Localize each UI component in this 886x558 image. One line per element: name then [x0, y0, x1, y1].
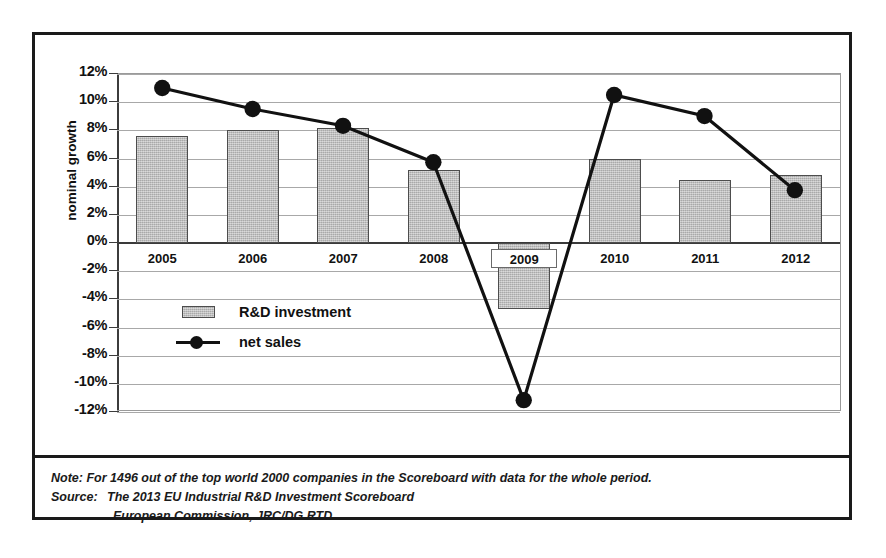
note-text: For 1496 out of the top world 2000 compa… — [86, 471, 651, 485]
note-panel: Note: For 1496 out of the top world 2000… — [35, 458, 849, 520]
y-axis-tick — [109, 101, 118, 102]
source-text-line-2: European Commission, JRC/DG RTD. — [113, 509, 336, 523]
chart-legend: R&D investment net sales — [175, 297, 351, 357]
figure-frame: 12%10%8%6%4%2%0%-2%-4%-6%-8%-10%-12% nom… — [32, 32, 852, 520]
note-line: Note: For 1496 out of the top world 2000… — [51, 469, 833, 488]
y-axis-tick — [109, 355, 118, 356]
net-sales-marker-2005 — [154, 80, 170, 96]
plot-area: 20052006200720082009201020112012 — [117, 73, 841, 411]
y-axis-tick — [109, 73, 118, 74]
y-axis-tick — [109, 298, 118, 299]
source-line-2: European Commission, JRC/DG RTD. — [51, 507, 833, 526]
net-sales-marker-2009 — [516, 392, 532, 408]
legend-item-net-sales: net sales — [175, 327, 351, 357]
y-axis-tick — [109, 214, 118, 215]
y-axis-tick — [109, 158, 118, 159]
legend-label-rd-investment: R&D investment — [239, 304, 351, 320]
source-line-1: Source: The 2013 EU Industrial R&D Inves… — [51, 488, 833, 507]
net-sales-marker-2007 — [335, 118, 351, 134]
chart-panel: 12%10%8%6%4%2%0%-2%-4%-6%-8%-10%-12% nom… — [35, 35, 849, 455]
source-text-line-1: The 2013 EU Industrial R&D Investment Sc… — [107, 488, 414, 507]
line-series-net-sales — [117, 74, 840, 410]
y-axis-tick — [109, 242, 118, 243]
note-label: Note: — [51, 471, 83, 485]
net-sales-marker-2012 — [787, 182, 803, 198]
legend-label-net-sales: net sales — [239, 334, 301, 350]
y-axis-tick-label: -2% — [37, 260, 107, 276]
y-axis-tick-label: -4% — [37, 288, 107, 304]
gridline — [117, 412, 840, 413]
net-sales-marker-2010 — [606, 87, 622, 103]
y-axis-title: nominal growth — [64, 91, 79, 251]
source-label: Source: — [51, 488, 107, 507]
y-axis-tick — [109, 383, 118, 384]
y-axis-tick — [109, 327, 118, 328]
y-axis-tick-label: -10% — [37, 373, 107, 389]
y-axis-tick — [109, 186, 118, 187]
legend-item-rd-investment: R&D investment — [175, 297, 351, 327]
y-axis-tick-label: -6% — [37, 317, 107, 333]
y-axis-tick — [109, 129, 118, 130]
net-sales-marker-2008 — [425, 154, 441, 170]
y-axis-tick-label: -8% — [37, 345, 107, 361]
net-sales-marker-2006 — [244, 101, 260, 117]
legend-line-marker-icon — [175, 336, 221, 348]
y-axis-tick — [109, 411, 118, 412]
net-sales-marker-2011 — [696, 108, 712, 124]
legend-swatch-icon — [175, 306, 221, 318]
y-axis-tick-label: 12% — [37, 63, 107, 79]
y-axis-tick — [109, 270, 118, 271]
y-axis-tick-label: -12% — [37, 401, 107, 417]
